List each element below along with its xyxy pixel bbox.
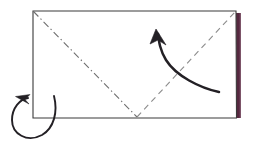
- colored-edge-band-group: [237, 13, 240, 118]
- paper-sheet-face: [33, 11, 237, 118]
- origami-diagram-svg: Origami fold step diagram Rectangular sh…: [0, 0, 257, 162]
- origami-diagram-canvas: Origami fold step diagram Rectangular sh…: [0, 0, 257, 162]
